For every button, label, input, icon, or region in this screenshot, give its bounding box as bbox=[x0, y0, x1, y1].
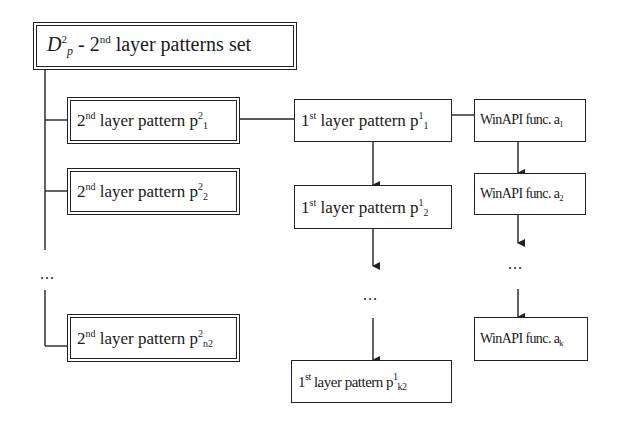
winapi-func-ak-box: WinAPI func. ak bbox=[474, 317, 588, 361]
second-layer-pattern-2-box: 2nd layer pattern p22 bbox=[67, 168, 240, 215]
winapi-func-a2-box: WinAPI func. a2 bbox=[474, 173, 586, 215]
second-layer-pattern-1-box: 2nd layer pattern p21 bbox=[67, 97, 240, 144]
first-layer-pattern-1-box: 1st layer pattern p11 bbox=[294, 99, 452, 142]
second-layer-pattern-n2-box: 2nd layer pattern p2n2 bbox=[67, 314, 240, 362]
winapi-ellipsis: ... bbox=[508, 256, 523, 272]
first-layer-pattern-2-box: 1st layer pattern p12 bbox=[294, 185, 452, 229]
root-label: D2p - 2nd layer patterns set bbox=[47, 33, 251, 59]
root-patterns-set-box: D2p - 2nd layer patterns set bbox=[33, 22, 297, 70]
first-layer-ellipsis: ... bbox=[363, 287, 378, 303]
first-layer-pattern-k2-box: 1st layer pattern p1k2 bbox=[291, 360, 452, 403]
winapi-func-a1-box: WinAPI func. a1 bbox=[474, 99, 586, 142]
second-layer-ellipsis: ... bbox=[40, 266, 55, 282]
